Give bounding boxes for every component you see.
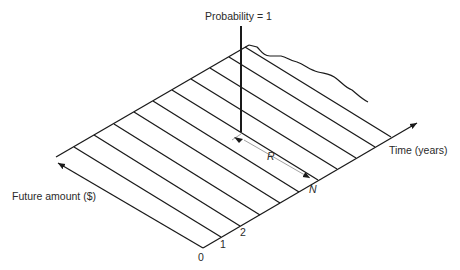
distribution-curve (249, 45, 368, 102)
tick-1: 1 (220, 239, 226, 250)
tick-0: 0 (198, 252, 204, 263)
time-slice-lines (74, 47, 391, 237)
r-label: R (267, 151, 275, 162)
n-label: N (309, 184, 317, 195)
back-edge (56, 45, 249, 157)
diagram-canvas (0, 0, 460, 270)
amount-axis-label: Future amount ($) (12, 191, 96, 202)
time-axis-label: Time (years) (389, 145, 448, 156)
amount-axis (58, 163, 203, 248)
r-arrow-start (234, 137, 243, 143)
tick-2: 2 (240, 227, 246, 238)
probability-label: Probability = 1 (205, 11, 272, 22)
